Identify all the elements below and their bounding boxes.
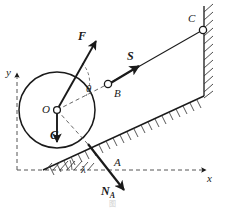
inclined-surface [43, 96, 204, 175]
figure-canvas: F G S NA O B A C θ λ y x [0, 0, 225, 208]
label-point-O: O [42, 103, 50, 115]
label-force-G: G [50, 128, 59, 142]
label-angle-lambda: λ [80, 163, 86, 175]
mechanics-figure: F G S NA O B A C θ λ y x 图 [0, 0, 225, 208]
label-force-F: F [77, 29, 86, 43]
wall-hatching [204, 4, 213, 98]
label-force-S: S [127, 49, 134, 63]
joint-C [199, 26, 206, 33]
axes-group [17, 73, 206, 170]
label-point-B: B [114, 87, 121, 99]
label-point-A: A [113, 156, 121, 168]
joint-O [54, 107, 61, 114]
label-axis-y: y [5, 66, 11, 78]
label-point-C: C [188, 12, 196, 24]
force-vector-S [109, 66, 139, 84]
construction-lines [57, 84, 108, 152]
figure-caption: 图 [0, 198, 225, 208]
label-axis-x: x [206, 172, 212, 184]
incline-face-line [43, 96, 204, 170]
vertical-wall [204, 4, 213, 98]
label-angle-theta: θ [86, 82, 92, 94]
joint-B [104, 80, 111, 87]
